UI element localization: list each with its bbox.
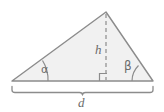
triangle-shape bbox=[12, 12, 153, 81]
base-brace-icon bbox=[12, 87, 153, 96]
angle-alpha-label: α bbox=[41, 64, 48, 75]
height-label: h bbox=[95, 43, 102, 56]
triangle-diagram: h d α β bbox=[0, 0, 164, 112]
angle-beta-label: β bbox=[124, 60, 132, 72]
base-label: d bbox=[78, 96, 85, 109]
